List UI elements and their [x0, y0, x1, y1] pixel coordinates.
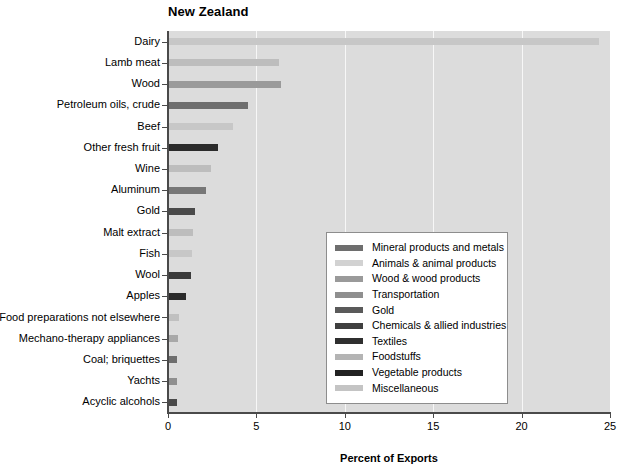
legend-label: Transportation: [372, 289, 439, 300]
y-axis-tick-label: Coal; briquettes: [83, 354, 160, 365]
legend-item[interactable]: Mineral products and metals: [335, 240, 501, 256]
bar[interactable]: [168, 399, 177, 406]
y-axis-tick-mark: [162, 169, 167, 170]
x-axis-line: [167, 412, 611, 414]
legend-swatch-icon: [335, 338, 363, 344]
y-axis-tick-mark: [162, 360, 167, 361]
bar-row: [168, 137, 610, 158]
bar-row: [168, 52, 610, 73]
bar-row: [168, 73, 610, 94]
legend-item[interactable]: Vegetable products: [335, 365, 501, 381]
x-axis-title: Percent of Exports: [168, 452, 610, 464]
y-axis-tick-mark: [162, 402, 167, 403]
bar-row: [168, 201, 610, 222]
x-axis-tick-label: 25: [590, 420, 623, 432]
legend-swatch-icon: [335, 323, 363, 329]
y-axis-tick-label: Other fresh fruit: [84, 142, 160, 153]
bar[interactable]: [168, 144, 218, 151]
bar-row: [168, 31, 610, 52]
chart-title: New Zealand: [168, 4, 418, 19]
y-axis-line: [167, 31, 169, 414]
legend-item[interactable]: Transportation: [335, 287, 501, 303]
y-axis-tick-mark: [162, 254, 167, 255]
x-axis-tick-mark: [433, 414, 434, 418]
bar[interactable]: [168, 38, 599, 45]
y-axis-tick-mark: [162, 127, 167, 128]
legend-item[interactable]: Textiles: [335, 334, 501, 350]
legend-label: Wood & wood products: [372, 273, 480, 284]
y-axis-tick-mark: [162, 84, 167, 85]
y-axis-tick-mark: [162, 233, 167, 234]
legend-label: Chemicals & allied industries: [372, 320, 506, 331]
bar[interactable]: [168, 378, 177, 385]
bar[interactable]: [168, 314, 179, 321]
legend-item[interactable]: Gold: [335, 302, 501, 318]
y-axis-tick-label: Wool: [135, 269, 160, 280]
bar[interactable]: [168, 229, 193, 236]
y-axis-tick-label: Acyclic alcohols: [82, 396, 160, 407]
legend-swatch-icon: [335, 370, 363, 376]
legend-item[interactable]: Miscellaneous: [335, 380, 501, 396]
bar-row: [168, 158, 610, 179]
y-axis-tick-label: Wine: [135, 163, 160, 174]
x-axis-tick-label: 20: [502, 420, 542, 432]
bar-row: [168, 95, 610, 116]
bar[interactable]: [168, 250, 192, 257]
legend-item[interactable]: Chemicals & allied industries: [335, 318, 501, 334]
legend-label: Miscellaneous: [372, 383, 439, 394]
y-axis-tick-label: Gold: [137, 205, 160, 216]
chart-container: New Zealand DairyLamb meatWoodPetroleum …: [0, 0, 623, 476]
y-axis-tick-mark: [162, 190, 167, 191]
bar[interactable]: [168, 123, 233, 130]
x-axis-tick-mark: [345, 414, 346, 418]
bar[interactable]: [168, 187, 206, 194]
x-axis-tick-mark: [256, 414, 257, 418]
y-axis-tick-mark: [162, 105, 167, 106]
legend-item[interactable]: Foodstuffs: [335, 349, 501, 365]
x-axis-tick-label: 10: [325, 420, 365, 432]
bar-row: [168, 116, 610, 137]
legend-swatch-icon: [335, 245, 363, 251]
x-axis-tick-mark: [522, 414, 523, 418]
bar[interactable]: [168, 59, 279, 66]
bar-row: [168, 180, 610, 201]
bar[interactable]: [168, 102, 248, 109]
legend-item[interactable]: Animals & animal products: [335, 256, 501, 272]
x-axis-tick-label: 5: [236, 420, 276, 432]
y-axis-tick-label: Apples: [126, 290, 160, 301]
bar[interactable]: [168, 356, 177, 363]
y-axis-tick-mark: [162, 317, 167, 318]
legend-swatch-icon: [335, 260, 363, 266]
bar[interactable]: [168, 81, 281, 88]
legend: Mineral products and metalsAnimals & ani…: [326, 232, 508, 404]
legend-label: Textiles: [372, 336, 407, 347]
legend-item[interactable]: Wood & wood products: [335, 271, 501, 287]
legend-swatch-icon: [335, 276, 363, 282]
legend-label: Mineral products and metals: [372, 242, 504, 253]
x-axis-tick-mark: [610, 414, 611, 418]
bar[interactable]: [168, 272, 191, 279]
bar[interactable]: [168, 335, 178, 342]
legend-label: Foodstuffs: [372, 351, 421, 362]
y-axis-tick-label: Mechano-therapy appliances: [19, 333, 160, 344]
bar[interactable]: [168, 165, 211, 172]
y-axis-tick-label: Dairy: [134, 36, 160, 47]
legend-swatch-icon: [335, 307, 363, 313]
y-axis-tick-label: Aluminum: [111, 184, 160, 195]
y-axis-tick-mark: [162, 42, 167, 43]
legend-label: Gold: [372, 305, 394, 316]
legend-swatch-icon: [335, 354, 363, 360]
legend-swatch-icon: [335, 385, 363, 391]
bar[interactable]: [168, 293, 186, 300]
legend-label: Animals & animal products: [372, 258, 496, 269]
bar[interactable]: [168, 208, 195, 215]
x-axis-tick-label: 15: [413, 420, 453, 432]
x-axis-tick-mark: [168, 414, 169, 418]
y-axis-tick-mark: [162, 275, 167, 276]
y-axis-tick-mark: [162, 296, 167, 297]
y-axis-tick-mark: [162, 381, 167, 382]
y-axis-tick-mark: [162, 211, 167, 212]
y-axis-tick-label: Beef: [137, 121, 160, 132]
y-axis-tick-label: Lamb meat: [105, 57, 160, 68]
x-axis-tick-label: 0: [148, 420, 188, 432]
